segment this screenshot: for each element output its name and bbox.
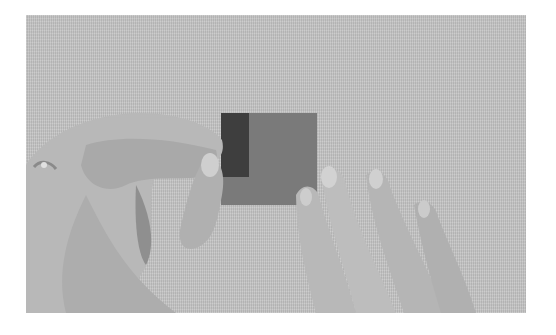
fingernail [321, 166, 337, 188]
fingernail [418, 200, 430, 218]
right-hand [296, 166, 476, 313]
fingernail [300, 188, 312, 206]
left-hand [26, 113, 223, 313]
fingernail [369, 169, 383, 189]
photograph: Hands folding a square piece of paper [26, 15, 526, 313]
photo-scene [26, 15, 526, 313]
paper-folded-flap [221, 113, 249, 177]
